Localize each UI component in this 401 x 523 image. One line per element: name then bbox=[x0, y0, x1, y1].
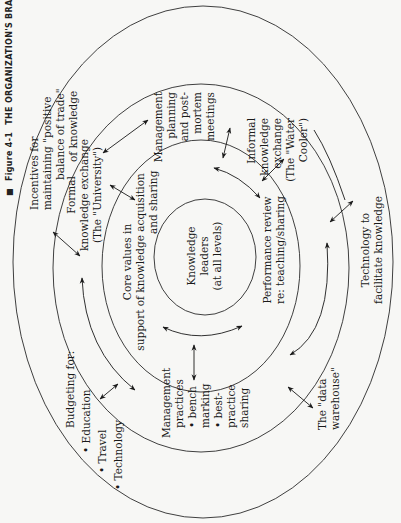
svg-text:sharing: sharing bbox=[238, 387, 250, 428]
core-values-label: Core values in support of knowledge acqu… bbox=[121, 170, 159, 350]
svg-text:meetings: meetings bbox=[204, 92, 216, 141]
technology-label: Technology to facilitate knowledge bbox=[359, 196, 384, 304]
svg-text:The "data: The "data bbox=[316, 378, 328, 430]
svg-text:Formal: Formal bbox=[65, 176, 77, 214]
svg-text:planning: planning bbox=[165, 92, 177, 139]
svg-text:maintaining "positive: maintaining "positive bbox=[41, 97, 53, 210]
svg-text:exchange: exchange bbox=[271, 118, 283, 169]
straight-arrow-icon bbox=[110, 185, 135, 200]
svg-text:re: teaching/sharing: re: teaching/sharing bbox=[274, 196, 286, 304]
svg-text:Budgeting for:: Budgeting for: bbox=[64, 351, 76, 428]
svg-text:and sharing: and sharing bbox=[147, 170, 159, 234]
svg-text:• bench: • bench bbox=[186, 386, 198, 428]
svg-text:(at all levels): (at all levels) bbox=[211, 222, 223, 291]
caption-marker: ■ bbox=[5, 188, 14, 196]
straight-arrow-icon bbox=[53, 232, 80, 256]
caption-title: THE ORGANIZATION'S BRAIN bbox=[5, 0, 14, 125]
organization-brain-diagram: ■ Figure 4-1 THE ORGANIZATION'S BRAIN Kn… bbox=[0, 0, 401, 523]
informal-exchange-label: Informal knowledge exchange (The "Water … bbox=[245, 117, 309, 182]
connector-line bbox=[314, 130, 345, 200]
svg-text:■ Figure 4-1 THE O: ■ Figure 4-1 THE ORGANIZATION'S BRAIN bbox=[5, 0, 14, 196]
management-planning-label: Management planning and post- mortem mee… bbox=[152, 91, 216, 162]
svg-text:Performance review: Performance review bbox=[261, 196, 273, 303]
straight-arrow-icon bbox=[100, 384, 118, 399]
svg-text:Informal: Informal bbox=[245, 117, 257, 163]
budgeting-label: Budgeting for: • Education • Travel • Te… bbox=[64, 351, 124, 490]
svg-text:Technology to: Technology to bbox=[359, 213, 371, 287]
straight-arrow-icon bbox=[103, 120, 148, 153]
svg-text:• Technology: • Technology bbox=[112, 420, 124, 490]
svg-text:balance of trade": balance of trade" bbox=[54, 88, 66, 180]
svg-text:Core values in: Core values in bbox=[121, 224, 133, 301]
svg-text:of knowledge: of knowledge bbox=[67, 91, 79, 162]
svg-text:• Education: • Education bbox=[80, 389, 92, 453]
performance-review-label: Performance review re: teaching/sharing bbox=[261, 196, 286, 304]
svg-text:mortem: mortem bbox=[191, 92, 203, 134]
curved-arrow-icon bbox=[290, 243, 328, 355]
svg-text:practice: practice bbox=[225, 384, 237, 428]
svg-text:Cooler"): Cooler") bbox=[297, 118, 309, 162]
figure-caption: ■ Figure 4-1 THE ORGANIZATION'S BRAIN bbox=[5, 0, 14, 196]
svg-text:knowledge exchange: knowledge exchange bbox=[78, 139, 90, 251]
straight-arrow-icon bbox=[330, 201, 353, 222]
svg-text:Management: Management bbox=[160, 367, 172, 438]
svg-text:knowledge: knowledge bbox=[258, 118, 270, 176]
svg-text:practices: practices bbox=[173, 379, 185, 428]
svg-text:and post-: and post- bbox=[178, 92, 190, 142]
svg-text:facilitate knowledge: facilitate knowledge bbox=[372, 196, 384, 304]
svg-text:• best-: • best- bbox=[212, 392, 224, 428]
svg-text:Knowledge: Knowledge bbox=[185, 226, 197, 285]
management-practices-label: Management practices • bench marking • b… bbox=[160, 367, 250, 438]
svg-text:(The "University"): (The "University") bbox=[91, 147, 103, 243]
svg-text:marking: marking bbox=[199, 383, 211, 428]
data-warehouse-label: The "data warehouse" bbox=[316, 367, 341, 430]
svg-text:support of knowledge acquisiti: support of knowledge acquisition bbox=[134, 173, 146, 351]
svg-text:(The "Water: (The "Water bbox=[284, 117, 296, 182]
svg-text:Incentives for: Incentives for bbox=[28, 136, 40, 210]
svg-text:Management: Management bbox=[152, 91, 164, 162]
svg-text:• Travel: • Travel bbox=[96, 429, 108, 473]
center-label: Knowledge leaders (at all levels) bbox=[185, 222, 223, 291]
svg-text:leaders: leaders bbox=[198, 236, 210, 275]
curved-arrow-icon bbox=[214, 168, 260, 198]
caption-label: Figure 4-1 bbox=[5, 132, 14, 181]
svg-text:warehouse": warehouse" bbox=[329, 367, 341, 430]
curved-arrow-icon bbox=[163, 326, 242, 336]
